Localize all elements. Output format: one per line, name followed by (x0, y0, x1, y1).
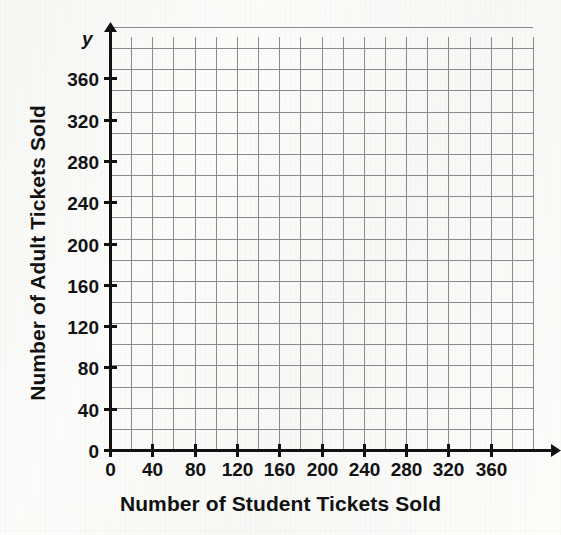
x-tick-label: 320 (433, 460, 465, 479)
grid-lines (110, 28, 534, 451)
x-tick-label: 40 (142, 460, 163, 479)
x-axis-arrowhead (551, 444, 561, 457)
graph-page: 0408012016020024028032036004080120160200… (0, 0, 561, 535)
x-tick-label: 0 (105, 460, 116, 479)
x-tick-label: 240 (349, 460, 381, 479)
y-axis-variable-label: y (82, 29, 93, 48)
x-tick-label: 280 (391, 460, 423, 479)
y-tick-label: 360 (67, 69, 99, 88)
y-tick-label: 280 (67, 152, 99, 171)
y-tick-label: 160 (67, 276, 99, 295)
y-axis-title: Number of Adult Tickets Sold (18, 43, 58, 463)
x-tick-label: 120 (222, 460, 254, 479)
y-tick-label: 200 (67, 235, 99, 254)
x-tick-label: 360 (476, 460, 508, 479)
y-tick-label: 40 (78, 400, 99, 419)
x-tick-label: 160 (264, 460, 296, 479)
x-axis-title: Number of Student Tickets Sold (0, 492, 561, 516)
tick-marks (104, 79, 492, 458)
y-tick-label: 120 (67, 317, 99, 336)
y-tick-label: 0 (88, 441, 99, 460)
y-tick-label: 240 (67, 193, 99, 212)
y-tick-label: 80 (78, 358, 99, 377)
x-tick-label: 200 (307, 460, 339, 479)
y-tick-label: 320 (67, 111, 99, 130)
x-tick-label: 80 (185, 460, 206, 479)
